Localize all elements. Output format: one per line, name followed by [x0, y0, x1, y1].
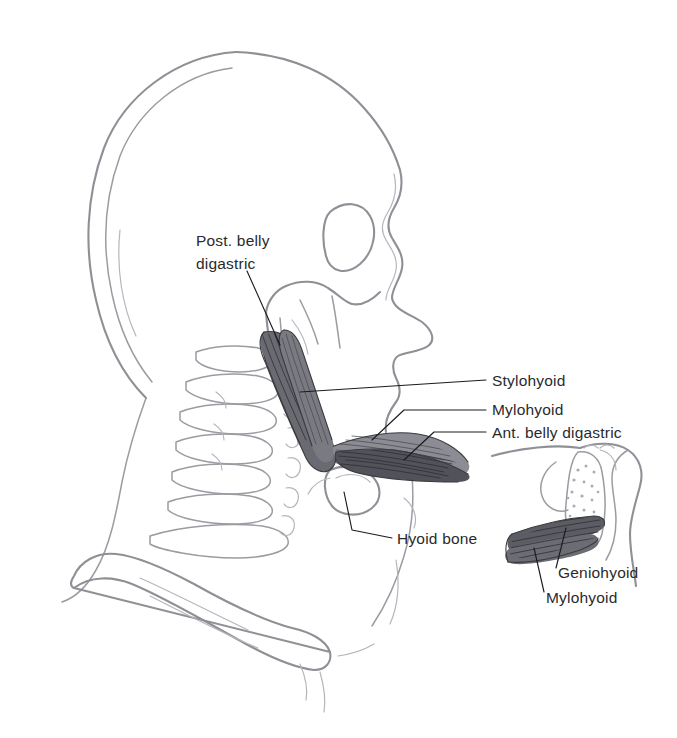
label-stylohyoid: Stylohyoid [492, 372, 566, 389]
label-post-belly-digastric-line2: digastric [196, 255, 256, 272]
label-ant-belly-digastric: Ant. belly digastric [492, 424, 622, 441]
clavicle [71, 554, 374, 712]
neck-contour [62, 398, 416, 626]
label-mylohyoid: Mylohyoid [492, 401, 564, 418]
inset-muscles [505, 516, 604, 564]
label-inset-mylohyoid: Mylohyoid [546, 589, 618, 606]
anatomy-illustration: Post. belly digastric Stylohyoid Mylohyo… [0, 0, 677, 738]
leader-stylohyoid [300, 380, 486, 392]
label-hyoid-bone: Hyoid bone [397, 530, 477, 547]
label-inset-geniohyoid: Geniohyoid [558, 564, 638, 581]
anatomical-figure: Post. belly digastric Stylohyoid Mylohyo… [0, 0, 677, 738]
label-post-belly-digastric-line1: Post. belly [196, 232, 270, 249]
